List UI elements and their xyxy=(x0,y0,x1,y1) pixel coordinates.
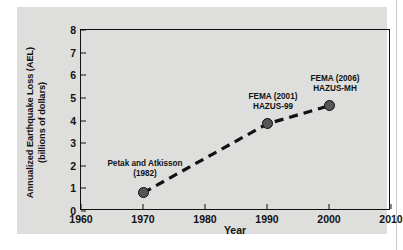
data-point-annotation: Petak and Atkisson(1982) xyxy=(107,159,182,179)
x-tick-label: 1960 xyxy=(69,213,92,225)
chart-page: Annualized Earthquake Loss (AEL) (billio… xyxy=(0,0,403,250)
plot-area: 012345678 196019701980199020002010 Petak… xyxy=(80,29,390,210)
annotation-line2: HAZUS-MH xyxy=(311,84,360,94)
data-line xyxy=(81,30,391,211)
data-point-annotation: FEMA (2006)HAZUS-MH xyxy=(311,74,360,94)
y-axis-title: Annualized Earthquake Loss (AEL) (billio… xyxy=(25,18,48,228)
x-tick-label: 1980 xyxy=(193,213,216,225)
x-tick-label: 2000 xyxy=(317,213,340,225)
x-tick-label: 1990 xyxy=(255,213,278,225)
y-tick-label: 7 xyxy=(70,47,76,59)
annotation-line1: FEMA (2006) xyxy=(311,74,360,84)
data-point-annotation: FEMA (2001)HAZUS-99 xyxy=(249,92,298,112)
y-tick-label: 4 xyxy=(70,115,76,127)
x-tick-label: 1970 xyxy=(131,213,154,225)
y-tick-label: 2 xyxy=(70,160,76,172)
x-tick-label: 2010 xyxy=(379,213,402,225)
y-axis-title-line2: (billions of dollars) xyxy=(36,18,48,228)
annotation-line1: Petak and Atkisson xyxy=(107,159,182,169)
data-point-marker xyxy=(262,118,273,129)
figure-panel: Annualized Earthquake Loss (AEL) (billio… xyxy=(17,7,387,234)
x-axis-title: Year xyxy=(80,224,390,236)
y-tick-label: 1 xyxy=(70,182,76,194)
annotation-line2: (1982) xyxy=(107,169,182,179)
y-axis-title-line1: Annualized Earthquake Loss (AEL) xyxy=(25,47,35,198)
y-tick-label: 5 xyxy=(70,92,76,104)
annotation-line2: HAZUS-99 xyxy=(249,102,298,112)
y-tick-label: 3 xyxy=(70,137,76,149)
data-point-marker xyxy=(138,187,149,198)
data-point-marker xyxy=(324,100,335,111)
annotation-line1: FEMA (2001) xyxy=(249,92,298,102)
y-tick-label: 8 xyxy=(70,24,76,36)
y-tick-label: 6 xyxy=(70,69,76,81)
